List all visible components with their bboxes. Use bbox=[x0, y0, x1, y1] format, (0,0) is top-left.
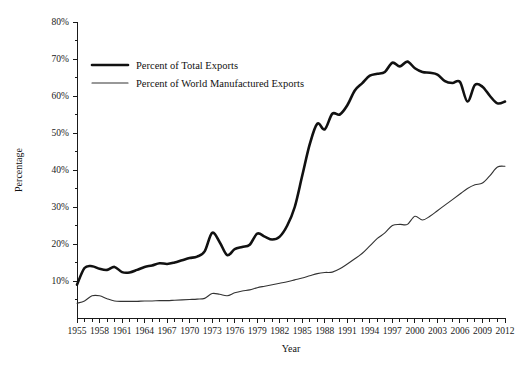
x-tick-label: 1994 bbox=[360, 326, 379, 336]
x-tick-label: 2003 bbox=[428, 326, 447, 336]
line-chart: 10%20%30%40%50%60%70%80% 195519581961196… bbox=[0, 0, 531, 366]
x-tick-label: 1982 bbox=[270, 326, 289, 336]
x-tick-label: 1958 bbox=[90, 326, 109, 336]
y-tick-label: 20% bbox=[52, 239, 70, 249]
x-tick-label: 1988 bbox=[315, 326, 334, 336]
x-tick-label: 2012 bbox=[496, 326, 515, 336]
data-series-group bbox=[77, 62, 505, 304]
y-tick-label: 60% bbox=[52, 91, 70, 101]
x-tick-label: 1967 bbox=[158, 326, 177, 336]
y-axis-ticks: 10%20%30%40%50%60%70%80% bbox=[52, 17, 77, 299]
chart-legend: Percent of Total ExportsPercent of World… bbox=[92, 60, 304, 89]
x-tick-label: 1985 bbox=[293, 326, 312, 336]
y-tick-label: 50% bbox=[52, 128, 70, 138]
y-tick-label: 10% bbox=[52, 276, 70, 286]
legend-label-1: Percent of Total Exports bbox=[136, 60, 238, 71]
x-tick-label: 2000 bbox=[405, 326, 424, 336]
chart-container: 10%20%30%40%50%60%70%80% 195519581961196… bbox=[0, 0, 531, 366]
y-tick-label: 40% bbox=[52, 165, 70, 175]
y-tick-label: 70% bbox=[52, 54, 70, 64]
x-tick-label: 1979 bbox=[248, 326, 267, 336]
series-line-2 bbox=[77, 166, 505, 303]
x-axis-title: Year bbox=[282, 343, 301, 354]
x-tick-label: 1976 bbox=[225, 326, 244, 336]
x-axis-ticks: 1955195819611964196719701973197619791982… bbox=[68, 318, 515, 336]
y-tick-label: 80% bbox=[52, 17, 70, 27]
x-tick-label: 2009 bbox=[473, 326, 492, 336]
legend-label-2: Percent of World Manufactured Exports bbox=[136, 78, 304, 89]
x-tick-label: 1991 bbox=[338, 326, 357, 336]
y-axis-title: Percentage bbox=[13, 148, 24, 192]
x-tick-label: 1997 bbox=[383, 326, 402, 336]
x-tick-label: 1955 bbox=[68, 326, 87, 336]
x-tick-label: 2006 bbox=[450, 326, 469, 336]
x-tick-label: 1961 bbox=[113, 326, 132, 336]
x-tick-label: 1973 bbox=[203, 326, 222, 336]
x-tick-label: 1964 bbox=[135, 326, 154, 336]
y-tick-label: 30% bbox=[52, 202, 70, 212]
x-tick-label: 1970 bbox=[180, 326, 199, 336]
series-line-1 bbox=[77, 62, 505, 285]
